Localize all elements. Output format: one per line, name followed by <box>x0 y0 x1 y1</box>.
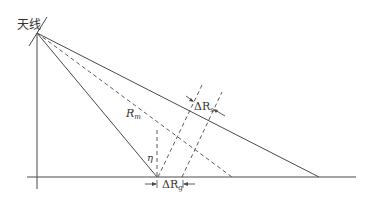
slant-resolution-label: ΔRs <box>194 100 214 114</box>
sar-geometry-diagram: 天线 Rm ΔRs ΔRg η <box>0 0 369 201</box>
slant-range-label: Rm <box>125 107 141 121</box>
wavefront-line-1 <box>158 83 203 177</box>
incidence-angle-label: η <box>147 152 153 163</box>
ground-resolution-label: ΔRg <box>162 178 183 192</box>
ground-res-arrowhead-right <box>183 182 188 186</box>
far-range-line <box>37 33 319 177</box>
ground-res-arrowhead-left <box>152 182 157 186</box>
antenna-label: 天线 <box>17 18 41 32</box>
near-range-line <box>37 33 157 177</box>
